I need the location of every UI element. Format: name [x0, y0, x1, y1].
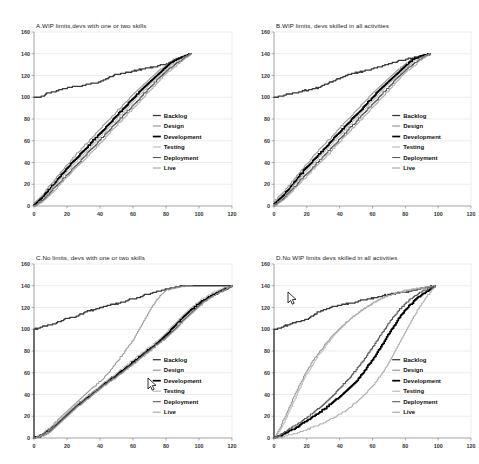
legend-label-design: Design	[403, 123, 423, 129]
y-tick-label: 60	[264, 138, 270, 144]
y-tick-label: 0	[267, 435, 270, 441]
y-tick-label: 120	[21, 305, 30, 311]
chart-title: C.No limits, devs with one or two skills	[36, 254, 145, 261]
chart-svg-b: B.WIP limits, devs skilled in all activi…	[240, 0, 479, 232]
series-group	[34, 286, 232, 438]
y-tick-label: 60	[24, 370, 30, 376]
y-tick-label: 40	[24, 160, 30, 166]
series-line-deployment	[274, 54, 430, 206]
y-tick-label: 80	[264, 348, 270, 354]
y-axis-ticks: 020406080100120140160	[261, 261, 274, 441]
figure-grid: A.WIP limits,devs with one or two skills…	[0, 0, 479, 464]
legend-label-backlog: Backlog	[164, 113, 188, 119]
series-group	[34, 54, 191, 206]
legend-label-design: Design	[164, 367, 184, 373]
legend-label-live: Live	[164, 409, 177, 415]
chart-panel-b: B.WIP limits, devs skilled in all activi…	[240, 0, 479, 232]
y-tick-label: 160	[261, 261, 270, 267]
y-tick-label: 80	[24, 348, 30, 354]
y-tick-label: 20	[24, 413, 30, 419]
y-tick-label: 60	[24, 138, 30, 144]
x-tick-label: 80	[163, 211, 169, 217]
chart-title: D.No WIP limits devs skilled in all acti…	[276, 254, 397, 261]
legend-label-development: Development	[164, 378, 202, 384]
gridlines	[274, 264, 471, 438]
x-tick-label: 80	[402, 443, 408, 449]
x-tick-label: 100	[434, 443, 443, 449]
x-tick-label: 60	[130, 443, 136, 449]
y-tick-label: 120	[261, 305, 270, 311]
y-tick-label: 20	[264, 181, 270, 187]
legend-label-deployment: Deployment	[403, 399, 437, 405]
legend: BacklogDesignDevelopmentTestingDeploymen…	[153, 357, 202, 416]
legend-label-backlog: Backlog	[164, 357, 188, 363]
y-tick-label: 80	[264, 116, 270, 122]
legend-label-backlog: Backlog	[403, 357, 427, 363]
chart-svg-a: A.WIP limits,devs with one or two skills…	[0, 0, 240, 232]
chart-title: B.WIP limits, devs skilled in all activi…	[276, 22, 389, 29]
legend-label-deployment: Deployment	[164, 155, 198, 161]
chart-svg-d: D.No WIP limits devs skilled in all acti…	[240, 232, 479, 464]
x-tick-label: 20	[64, 211, 70, 217]
x-tick-label: 120	[467, 443, 476, 449]
legend-label-live: Live	[164, 165, 177, 171]
x-axis-ticks: 020406080100120	[273, 438, 476, 449]
y-tick-label: 140	[21, 283, 30, 289]
x-tick-label: 100	[195, 443, 204, 449]
x-tick-label: 0	[33, 211, 36, 217]
y-tick-label: 100	[21, 94, 30, 100]
chart-svg-c: C.No limits, devs with one or two skills…	[0, 232, 240, 464]
x-tick-label: 120	[228, 443, 237, 449]
y-tick-label: 0	[267, 203, 270, 209]
x-tick-label: 100	[434, 211, 443, 217]
legend-label-design: Design	[164, 123, 184, 129]
y-tick-label: 120	[21, 73, 30, 79]
y-tick-label: 160	[21, 261, 30, 267]
x-axis-ticks: 020406080100120	[273, 206, 476, 217]
x-tick-label: 100	[195, 211, 204, 217]
legend-label-deployment: Deployment	[403, 155, 437, 161]
y-tick-label: 100	[21, 326, 30, 332]
legend-label-development: Development	[164, 134, 202, 140]
chart-panel-a: A.WIP limits,devs with one or two skills…	[0, 0, 240, 232]
x-tick-label: 0	[33, 443, 36, 449]
x-tick-label: 60	[370, 211, 376, 217]
y-tick-label: 20	[24, 181, 30, 187]
series-line-testing	[274, 54, 430, 205]
x-tick-label: 120	[467, 211, 476, 217]
y-tick-label: 140	[261, 283, 270, 289]
legend-label-deployment: Deployment	[164, 399, 198, 405]
y-tick-label: 160	[261, 29, 270, 35]
series-group	[274, 54, 430, 206]
y-tick-label: 0	[27, 435, 30, 441]
x-tick-label: 120	[228, 211, 237, 217]
x-axis-ticks: 020406080100120	[33, 438, 237, 449]
x-tick-label: 40	[97, 211, 103, 217]
x-tick-label: 20	[304, 443, 310, 449]
x-axis-ticks: 020406080100120	[33, 206, 237, 217]
legend-label-development: Development	[403, 378, 441, 384]
legend-label-testing: Testing	[403, 388, 424, 394]
x-tick-label: 40	[97, 443, 103, 449]
y-tick-label: 40	[264, 392, 270, 398]
y-tick-label: 40	[264, 160, 270, 166]
y-axis-ticks: 020406080100120140160	[21, 261, 34, 441]
legend-label-live: Live	[403, 409, 416, 415]
y-tick-label: 100	[261, 326, 270, 332]
y-tick-label: 160	[21, 29, 30, 35]
y-tick-label: 100	[261, 94, 270, 100]
y-axis-ticks: 020406080100120140160	[21, 29, 34, 209]
chart-panel-d: D.No WIP limits devs skilled in all acti…	[240, 232, 479, 464]
legend-label-live: Live	[403, 165, 416, 171]
x-tick-label: 60	[370, 443, 376, 449]
x-tick-label: 20	[64, 443, 70, 449]
y-tick-label: 0	[27, 203, 30, 209]
legend-label-backlog: Backlog	[403, 113, 427, 119]
y-tick-label: 140	[21, 51, 30, 57]
x-tick-label: 80	[402, 211, 408, 217]
y-tick-label: 80	[24, 116, 30, 122]
x-tick-label: 40	[337, 211, 343, 217]
y-tick-label: 20	[264, 413, 270, 419]
x-tick-label: 80	[163, 443, 169, 449]
legend: BacklogDesignDevelopmentTestingDeploymen…	[392, 357, 441, 416]
